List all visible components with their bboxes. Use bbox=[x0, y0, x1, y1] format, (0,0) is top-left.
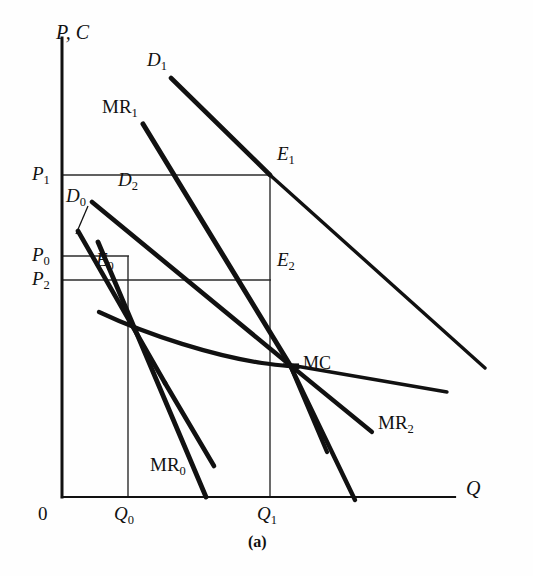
point-label-e1: E1 bbox=[277, 144, 295, 167]
price-tick-p2: P2 bbox=[32, 269, 50, 292]
x-axis-label: Q bbox=[466, 478, 480, 498]
economics-figure-kinked-demand: P, C Q 0 P1 P0 P2 Q0 Q1 D0 D1 D2 MR0 MR1… bbox=[0, 0, 533, 576]
curve-label-mr0: MR0 bbox=[150, 455, 186, 478]
d1-curve-lower bbox=[270, 175, 485, 368]
price-tick-p0: P0 bbox=[32, 245, 50, 268]
d0-leader-line bbox=[76, 206, 88, 234]
curve-label-mr1: MR1 bbox=[102, 97, 138, 120]
guide-lines bbox=[62, 175, 271, 497]
curve-label-d0: D0 bbox=[66, 186, 86, 209]
curve-label-d2: D2 bbox=[118, 170, 138, 193]
mr1-curve-upper bbox=[143, 124, 290, 365]
quantity-tick-q1: Q1 bbox=[257, 504, 277, 527]
d1-curve-upper bbox=[171, 78, 270, 175]
point-label-e2: E2 bbox=[277, 250, 295, 273]
price-tick-p1: P1 bbox=[32, 164, 50, 187]
curve-label-mr2: MR2 bbox=[378, 413, 414, 436]
diagram-canvas bbox=[0, 0, 533, 576]
curve-label-mc: MC bbox=[303, 354, 331, 372]
d2-curve-upper bbox=[92, 202, 290, 365]
quantity-tick-q0: Q0 bbox=[114, 504, 134, 527]
origin-label: 0 bbox=[38, 504, 48, 523]
figure-caption: (a) bbox=[248, 534, 267, 550]
curve-label-d1: D1 bbox=[147, 50, 167, 73]
point-label-e0: E0 bbox=[96, 250, 114, 273]
y-axis-label: P, C bbox=[56, 22, 89, 42]
